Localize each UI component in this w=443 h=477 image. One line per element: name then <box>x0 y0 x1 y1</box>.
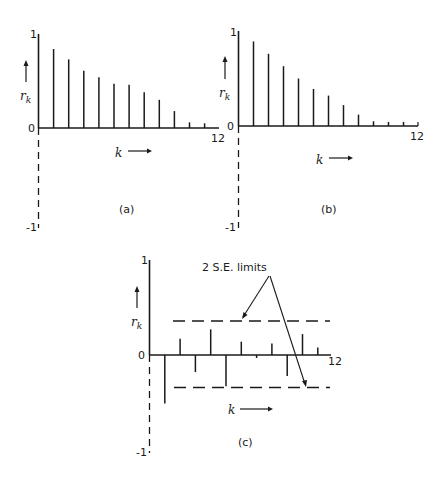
x-label-c: k <box>228 403 235 417</box>
x-arrow-c <box>240 407 273 412</box>
x-tick-12-c: 12 <box>328 355 342 368</box>
y-label-b: rk <box>219 86 230 102</box>
x-tick-12-b: 12 <box>410 130 424 143</box>
y-tick-neg1-a: -1 <box>26 221 37 234</box>
panel-label-b: (b) <box>321 203 337 216</box>
y-arrow-b <box>223 56 228 79</box>
y-arrow-c <box>135 286 140 308</box>
y-tick-1-a: 1 <box>30 28 37 41</box>
y-label-c: rk <box>131 315 142 331</box>
chart-panel-a: 1 0 -1 12 rk k (a) <box>20 28 225 234</box>
y-tick-neg1-b: -1 <box>225 221 236 234</box>
acf-figure: 1 0 -1 12 rk k (a) 1 0 -1 12 rk k <box>0 0 443 477</box>
bars-c <box>165 329 318 403</box>
y-arrow-a <box>24 60 29 82</box>
y-tick-neg1-c: -1 <box>136 446 147 459</box>
x-arrow-a <box>128 149 152 154</box>
y-tick-0-a: 0 <box>28 122 35 135</box>
se-limits-annotation: 2 S.E. limits <box>202 261 267 274</box>
x-label-a: k <box>115 146 122 160</box>
panel-label-c: (c) <box>238 436 253 449</box>
y-tick-0-c: 0 <box>138 349 145 362</box>
annotation-arrows <box>242 276 307 387</box>
chart-panel-b: 1 0 -1 12 rk k (b) <box>219 26 424 234</box>
bars-a <box>54 49 205 128</box>
y-tick-1-b: 1 <box>230 26 237 39</box>
y-tick-0-b: 0 <box>227 120 234 133</box>
chart-panel-c: 1 0 -1 12 rk k 2 S.E. limits (c) <box>131 254 342 459</box>
y-label-a: rk <box>20 89 31 105</box>
x-arrow-b <box>329 156 353 161</box>
bars-b <box>254 41 404 126</box>
x-tick-12-a: 12 <box>211 132 225 145</box>
x-label-b: k <box>316 153 323 167</box>
panel-label-a: (a) <box>119 203 134 216</box>
y-tick-1-c: 1 <box>141 254 148 267</box>
